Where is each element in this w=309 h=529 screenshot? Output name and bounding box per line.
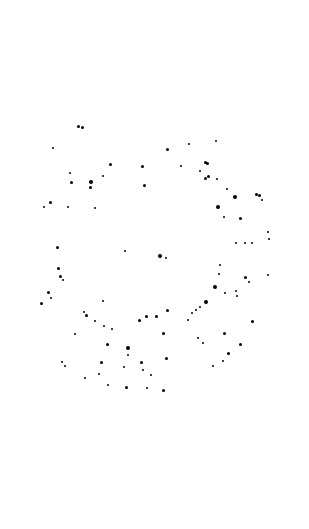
dot (127, 354, 129, 356)
dot (268, 238, 270, 240)
dot (85, 314, 88, 317)
dot (267, 231, 269, 233)
dot (251, 242, 253, 244)
dot (98, 373, 100, 375)
dot (102, 175, 104, 177)
dot (244, 276, 247, 279)
dot (216, 178, 218, 180)
dot (239, 217, 242, 220)
dot (213, 285, 217, 289)
dot (77, 125, 80, 128)
dot (244, 242, 246, 244)
dot (226, 188, 228, 190)
dot (109, 163, 112, 166)
dot (102, 300, 104, 302)
dot (233, 195, 237, 199)
dot (57, 267, 60, 270)
dot (47, 291, 50, 294)
dot (107, 384, 109, 386)
dot (158, 254, 162, 258)
dot (70, 181, 73, 184)
dot (165, 357, 168, 360)
dot (191, 312, 193, 314)
dot (165, 257, 167, 259)
dot (248, 281, 250, 283)
dot (199, 306, 201, 308)
dot (204, 300, 208, 304)
dot (222, 360, 224, 362)
dot (197, 337, 199, 339)
dot-field-image (0, 0, 309, 529)
dot (83, 311, 85, 313)
dot (40, 302, 43, 305)
dot (103, 325, 105, 327)
dot (125, 386, 128, 389)
dot (89, 186, 92, 189)
dot (188, 143, 190, 145)
dot (50, 297, 52, 299)
dot (140, 361, 143, 364)
dot (227, 352, 230, 355)
dot (223, 332, 226, 335)
dot (199, 170, 201, 172)
dot (166, 148, 169, 151)
dot (81, 126, 84, 129)
dot (251, 320, 254, 323)
dot (215, 140, 217, 142)
dot (106, 343, 109, 346)
dot (162, 332, 165, 335)
dot (94, 320, 96, 322)
dot (195, 309, 197, 311)
dot (166, 309, 169, 312)
dot (235, 290, 237, 292)
dot (145, 315, 148, 318)
dot (219, 264, 221, 266)
dot (56, 246, 59, 249)
dot (187, 319, 189, 321)
dot (235, 242, 237, 244)
dot (150, 374, 152, 376)
dot (123, 366, 125, 368)
dot (224, 292, 226, 294)
dot (124, 250, 126, 252)
dot (204, 177, 207, 180)
dot (138, 319, 141, 322)
dot (59, 275, 62, 278)
dot (146, 387, 148, 389)
dot (202, 342, 204, 344)
dot (43, 206, 45, 208)
dot (62, 279, 64, 281)
dot (218, 273, 220, 275)
dot (52, 147, 54, 149)
dot (207, 175, 210, 178)
dot (261, 199, 263, 201)
dot (84, 377, 86, 379)
dot (49, 201, 52, 204)
dot (61, 361, 63, 363)
dot (69, 172, 71, 174)
dot (67, 206, 69, 208)
dot (74, 333, 76, 335)
dot (239, 343, 242, 346)
dot (267, 274, 269, 276)
dot (94, 207, 96, 209)
dot (142, 369, 144, 371)
dot (100, 361, 103, 364)
dot (258, 194, 261, 197)
dot (89, 180, 93, 184)
dot (216, 205, 220, 209)
dot (155, 315, 158, 318)
dot (141, 165, 144, 168)
dot (111, 328, 113, 330)
dot (126, 346, 130, 350)
dot (180, 165, 182, 167)
dot (143, 184, 146, 187)
dot (236, 295, 238, 297)
dot (212, 365, 214, 367)
dot (64, 365, 66, 367)
dot (223, 216, 225, 218)
dot (162, 389, 165, 392)
dot (206, 162, 209, 165)
